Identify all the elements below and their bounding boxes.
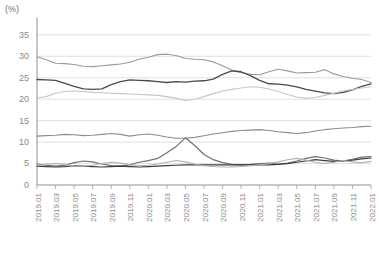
y-tick-label: 25 <box>19 73 29 83</box>
series-line-series-4 <box>37 126 371 138</box>
x-tick-labels-group: 2019.012019.032019.052019.072019.092019.… <box>34 192 377 221</box>
x-tick-label: 2021.01 <box>256 192 265 221</box>
y-tick-label: 5 <box>24 158 29 168</box>
x-tick-label: 2021.03 <box>275 192 284 221</box>
series-line-series-2 <box>37 71 371 94</box>
line-chart: (%) 05101520253035 2019.012019.032019.05… <box>0 0 379 274</box>
y-tick-label: 0 <box>24 180 29 190</box>
y-tick-label: 15 <box>19 116 29 126</box>
x-tick-label: 2019.05 <box>71 192 80 221</box>
y-tick-labels-group: 05101520253035 <box>19 30 29 190</box>
x-tick-label: 2021.05 <box>293 192 302 221</box>
x-tick-label: 2020.05 <box>182 192 191 221</box>
x-tick-label: 2020.07 <box>201 192 210 221</box>
x-tick-label: 2019.07 <box>89 192 98 221</box>
x-tick-label: 2020.03 <box>163 192 172 221</box>
gridlines-group <box>37 35 371 164</box>
series-line-series-1 <box>37 54 371 82</box>
y-tick-label: 30 <box>19 51 29 61</box>
x-tick-label: 2019.09 <box>108 192 117 221</box>
y-tick-label: 35 <box>19 30 29 40</box>
x-tick-label: 2021.07 <box>312 192 321 221</box>
x-tick-label: 2021.09 <box>330 192 339 221</box>
x-tick-marks-group <box>37 185 371 189</box>
chart-canvas: 05101520253035 2019.012019.032019.052019… <box>0 0 379 274</box>
y-tick-label: 20 <box>19 94 29 104</box>
x-tick-label: 2020.01 <box>145 192 154 221</box>
x-tick-label: 2019.11 <box>126 192 135 221</box>
x-tick-label: 2020.09 <box>219 192 228 221</box>
x-tick-label: 2021.11 <box>349 192 358 221</box>
x-tick-label: 2020.11 <box>238 192 247 221</box>
x-tick-label: 2019.01 <box>34 192 43 221</box>
y-tick-label: 10 <box>19 137 29 147</box>
x-tick-label: 2022.01 <box>368 192 377 221</box>
series-lines-group <box>37 54 371 167</box>
x-tick-label: 2019.03 <box>52 192 61 221</box>
